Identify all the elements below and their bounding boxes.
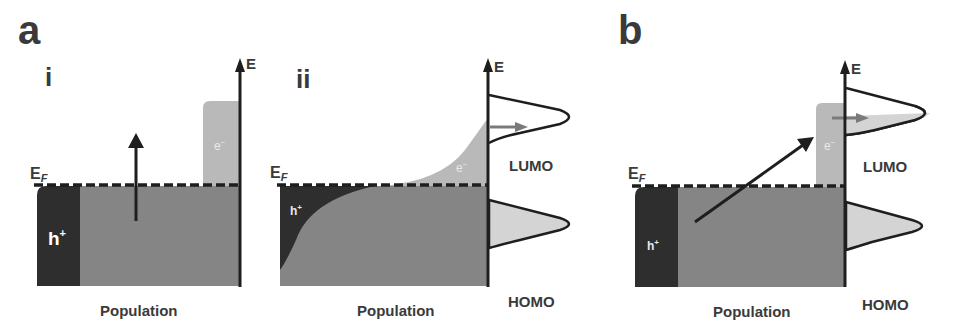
filled-band	[678, 187, 845, 287]
axis-arrow-icon	[235, 58, 245, 72]
subpanel-label-i: i	[45, 62, 52, 92]
arrow-head-icon	[128, 133, 144, 148]
population-label: Population	[713, 303, 791, 320]
panel-b: b h+ e− EF E LUMO HOMO Population	[618, 8, 930, 320]
homo-peak	[489, 200, 569, 248]
axis-arrow-icon	[840, 60, 850, 74]
lumo-peak	[489, 95, 569, 143]
filled-band	[80, 186, 240, 286]
population-label: Population	[100, 302, 178, 319]
axis-arrow-icon	[483, 58, 493, 72]
panel-a-i: a i h+ e− EF E Population	[18, 8, 256, 319]
fermi-label: EF	[30, 165, 48, 184]
fermi-label: EF	[628, 165, 646, 184]
energy-axis-label: E	[246, 55, 256, 72]
panel-a-ii: ii e− h+ EF E LUMO HOMO Population	[270, 58, 569, 319]
panel-label-b: b	[618, 8, 642, 52]
subpanel-label-ii: ii	[296, 64, 310, 94]
arrow-head-icon	[797, 137, 814, 152]
fermi-label: EF	[270, 164, 288, 183]
energy-axis-label: E	[494, 58, 504, 75]
population-label: Population	[357, 302, 435, 319]
panel-label-a: a	[18, 8, 41, 52]
energy-axis-label: E	[851, 60, 861, 77]
lumo-label: LUMO	[509, 157, 553, 174]
homo-label: HOMO	[508, 293, 555, 310]
homo-peak	[846, 202, 922, 250]
lumo-label: LUMO	[863, 158, 907, 175]
electron-region	[380, 118, 488, 186]
homo-label: HOMO	[862, 296, 909, 313]
figure: a i h+ e− EF E Population ii e− h+ EF	[0, 0, 958, 334]
hole-region	[635, 187, 678, 287]
